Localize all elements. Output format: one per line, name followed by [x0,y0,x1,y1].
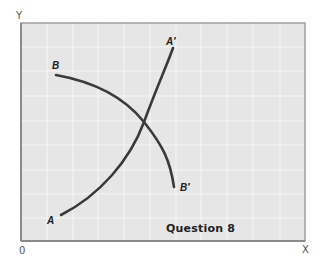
label-b-prime: B′ [180,182,190,193]
chart-figure: Y 0 X B A′ A B′ Question 8 [0,0,322,269]
origin-label: 0 [19,245,25,256]
chart-svg [0,0,322,269]
plot-area [21,23,305,241]
figure-caption: Question 8 [166,222,235,235]
label-b: B [52,60,59,71]
x-axis-label: X [302,244,309,255]
label-a: A [47,215,54,226]
label-a-prime: A′ [166,36,176,47]
y-axis-label: Y [16,10,22,21]
